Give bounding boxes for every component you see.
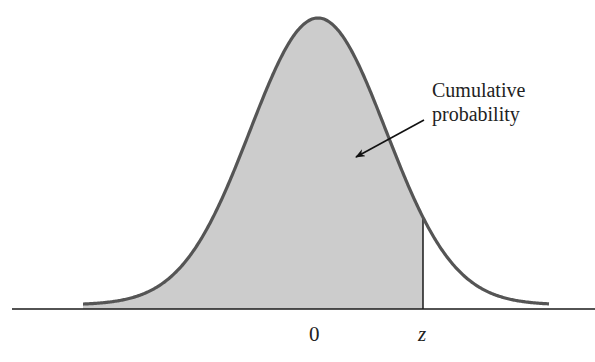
normal-curve-diagram: [0, 0, 595, 362]
tick-label-z: z: [418, 322, 426, 346]
annotation-line-2: probability: [432, 102, 525, 126]
tick-label-zero: 0: [309, 322, 320, 346]
cumulative-probability-annotation: Cumulative probability: [432, 78, 525, 126]
annotation-line-1: Cumulative: [432, 78, 525, 102]
shaded-area: [83, 18, 423, 309]
